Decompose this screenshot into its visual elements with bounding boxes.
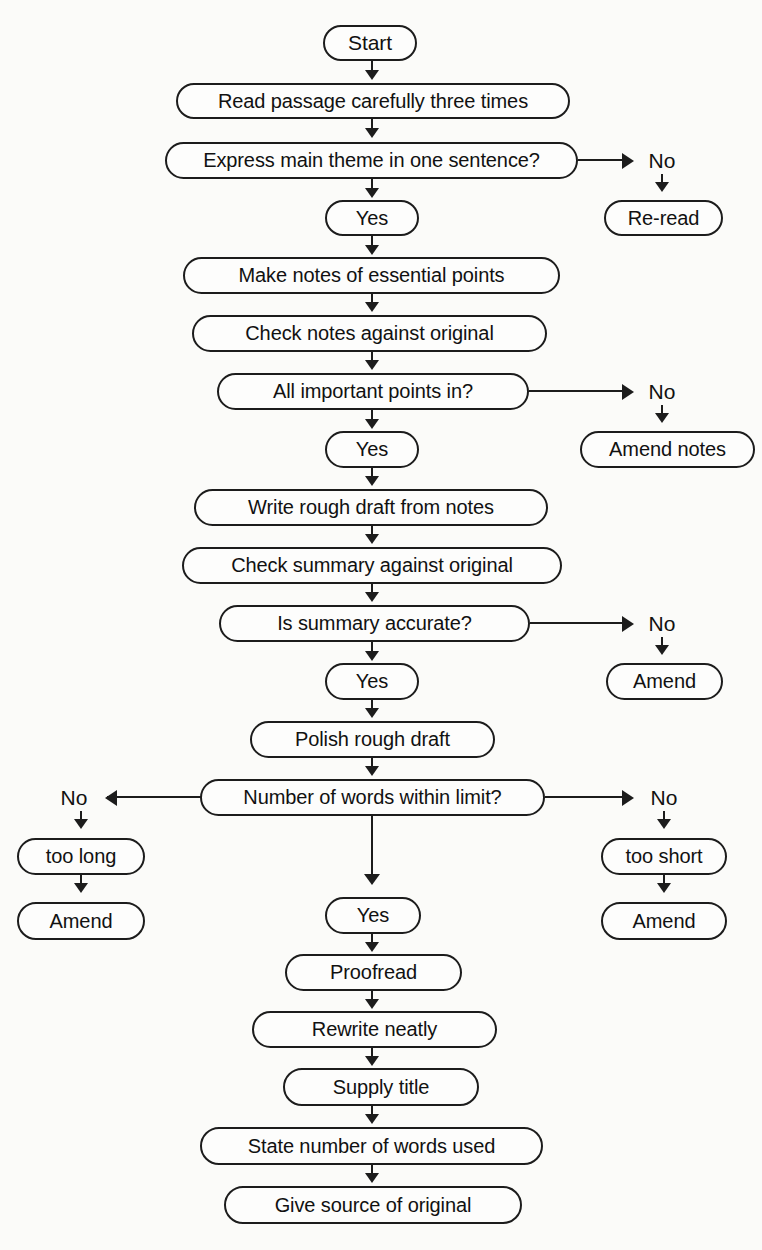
edge-accurate-to-no	[530, 622, 624, 624]
label-no-accurate: No	[640, 611, 684, 635]
node-polish-draft[interactable]: Polish rough draft	[250, 721, 495, 758]
arrowhead-down-checksummary	[365, 592, 379, 602]
edge-wordlimit-to-no-left	[107, 796, 202, 798]
arrowhead-right-allpoints	[622, 384, 634, 400]
arrowhead-down-writedraft	[365, 534, 379, 544]
edge-wordlimit-to-yes4	[371, 816, 373, 878]
node-check-notes[interactable]: Check notes against original	[192, 315, 547, 352]
arrowhead-down-tooshort	[657, 883, 671, 893]
arrowhead-down-no-express	[655, 182, 669, 192]
node-yes-3[interactable]: Yes	[325, 663, 419, 700]
arrowhead-down-proofread	[365, 999, 379, 1009]
clipped-title-text	[0, 0, 762, 5]
node-give-source[interactable]: Give source of original	[224, 1186, 522, 1224]
node-supply-title[interactable]: Supply title	[283, 1068, 479, 1106]
arrowhead-down-express	[365, 188, 379, 198]
edge-allpoints-to-no	[529, 390, 624, 392]
node-make-notes[interactable]: Make notes of essential points	[183, 257, 560, 294]
node-yes-2[interactable]: Yes	[325, 431, 419, 468]
node-rewrite[interactable]: Rewrite neatly	[252, 1011, 497, 1048]
arrowhead-right-wordlimit	[622, 790, 634, 806]
arrowhead-down-supplytitle	[365, 1114, 379, 1124]
edge-wordlimit-to-no-right	[545, 796, 624, 798]
arrowhead-down-makenotes	[365, 302, 379, 312]
label-no-right: No	[642, 785, 686, 809]
arrowhead-down-start	[365, 70, 379, 80]
arrowhead-down-yes3	[365, 708, 379, 718]
node-all-points[interactable]: All important points in?	[217, 373, 529, 410]
arrowhead-right-accurate	[622, 616, 634, 632]
arrowhead-down-wordlimit	[364, 874, 380, 885]
arrowhead-down-statewords	[365, 1173, 379, 1183]
node-state-words[interactable]: State number of words used	[200, 1127, 543, 1165]
arrowhead-right-express	[622, 153, 634, 169]
arrowhead-down-read	[365, 128, 379, 138]
node-amend-right[interactable]: Amend	[601, 902, 727, 940]
label-no-allpoints: No	[640, 379, 684, 403]
node-too-long[interactable]: too long	[17, 838, 145, 875]
node-yes-1[interactable]: Yes	[325, 200, 419, 236]
arrowhead-down-no-accurate	[655, 645, 669, 655]
arrowhead-down-toolong	[74, 883, 88, 893]
arrowhead-down-checknotes	[365, 360, 379, 370]
node-yes-4[interactable]: Yes	[325, 897, 421, 934]
arrowhead-down-no-right	[657, 819, 671, 829]
label-no-express: No	[640, 148, 684, 172]
arrowhead-down-yes4	[365, 942, 379, 952]
edge-express-to-no	[578, 159, 624, 161]
arrowhead-down-no-allpoints	[655, 413, 669, 423]
node-amend-notes[interactable]: Amend notes	[580, 431, 755, 468]
arrowhead-down-yes2	[365, 476, 379, 486]
node-express-theme[interactable]: Express main theme in one sentence?	[165, 142, 578, 179]
node-check-summary[interactable]: Check summary against original	[182, 547, 562, 584]
arrowhead-down-allpoints	[365, 419, 379, 429]
node-re-read[interactable]: Re-read	[604, 200, 723, 236]
node-write-draft[interactable]: Write rough draft from notes	[194, 489, 548, 526]
node-read-passage[interactable]: Read passage carefully three times	[176, 83, 570, 119]
arrowhead-down-polish	[365, 766, 379, 776]
node-word-limit[interactable]: Number of words within limit?	[200, 779, 545, 816]
arrowhead-down-no-left	[74, 819, 88, 829]
node-amend-middle[interactable]: Amend	[606, 663, 723, 700]
flowchart-canvas: Start Read passage carefully three times…	[0, 0, 762, 1250]
node-summary-accurate[interactable]: Is summary accurate?	[219, 605, 530, 642]
node-start[interactable]: Start	[323, 25, 417, 61]
label-no-left: No	[52, 785, 96, 809]
node-amend-left[interactable]: Amend	[17, 902, 145, 940]
arrowhead-down-rewrite	[365, 1056, 379, 1066]
arrowhead-left-wordlimit	[105, 790, 117, 806]
arrowhead-down-yes1	[365, 245, 379, 255]
node-proofread[interactable]: Proofread	[285, 954, 462, 991]
node-too-short[interactable]: too short	[601, 838, 727, 875]
arrowhead-down-accurate	[365, 651, 379, 661]
